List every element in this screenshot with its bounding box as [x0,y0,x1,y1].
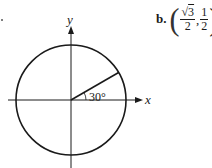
y-axis-label: y [67,13,73,26]
x-denominator: 2 [185,20,191,33]
x-numerator: 3 [188,5,194,19]
y-axis-arrow-icon [68,26,74,34]
answer-b: b. ( √3 2 , 1 2 ) [156,4,212,34]
x-axis-arrow-icon [135,97,143,103]
x-coordinate-fraction: √3 2 [180,6,195,32]
comma: , [196,12,199,28]
x-axis-label: x [145,93,151,106]
y-coordinate-fraction: 1 2 [200,6,208,32]
y-denominator: 2 [201,20,207,33]
angle-label: 30° [89,91,106,103]
close-paren: ) [209,3,212,35]
y-numerator: 1 [200,6,208,20]
angle-arc [84,93,86,101]
part-label: b. [156,11,166,27]
open-paren: ( [169,3,179,35]
